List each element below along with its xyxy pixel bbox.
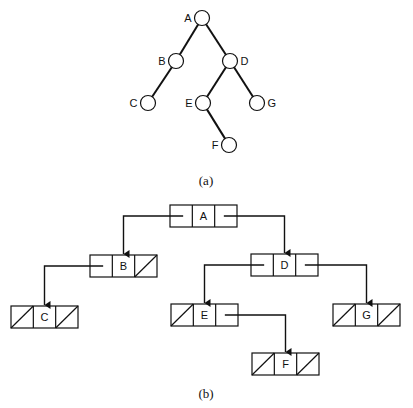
tree-node-g	[250, 96, 265, 111]
node-data-label: E	[201, 309, 208, 321]
tree-node-label: F	[212, 139, 219, 151]
tree-edge	[207, 67, 226, 96]
linked-node-f: F	[252, 353, 319, 375]
binary-tree-figure: ABDCEGF (a) ABDCEGF (b)	[0, 0, 413, 408]
node-data-label: G	[362, 309, 371, 321]
tree-edge	[180, 24, 198, 54]
linked-node-g: G	[333, 304, 400, 326]
tree-node-label: B	[158, 55, 165, 67]
caption-b: (b)	[198, 386, 213, 401]
node-data-label: D	[281, 259, 289, 271]
tree-node-d	[223, 54, 238, 69]
tree-node-label: G	[268, 97, 277, 109]
tree-node-f	[222, 138, 237, 153]
tree-node-b	[169, 54, 184, 69]
tree-edge	[234, 67, 253, 96]
tree-node-a	[195, 11, 210, 26]
node-data-label: F	[282, 358, 289, 370]
linked-node-c: C	[11, 306, 78, 328]
node-data-label: C	[41, 311, 49, 323]
tree-edge	[207, 109, 225, 138]
caption-a: (a)	[199, 173, 213, 188]
linked-representation-b: ABDCEGF	[11, 205, 400, 375]
node-data-label: B	[120, 260, 127, 272]
tree-diagram-a: ABDCEGF	[130, 11, 277, 153]
tree-node-label: E	[185, 97, 192, 109]
tree-node-label: A	[184, 12, 192, 24]
diagram-svg: ABDCEGF (a) ABDCEGF (b)	[0, 0, 413, 408]
tree-node-c	[141, 96, 156, 111]
node-data-label: A	[200, 210, 208, 222]
tree-edge	[206, 24, 226, 54]
tree-node-label: C	[130, 97, 138, 109]
tree-node-label: D	[241, 55, 249, 67]
tree-edge	[152, 67, 172, 97]
tree-node-e	[196, 96, 211, 111]
